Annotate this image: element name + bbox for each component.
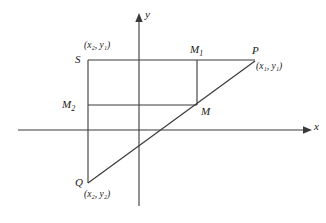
point-label-m1-base: M [190, 43, 199, 55]
point-label-m: M [201, 106, 210, 117]
coord-label-p: (x₁, y₁) [256, 62, 282, 72]
y-axis [135, 13, 142, 206]
point-label-q: Q [75, 177, 83, 188]
segment-q-to-p [88, 61, 255, 183]
point-label-m2: M2 [62, 99, 75, 113]
coord-label-s: (x₂, y₁) [84, 41, 110, 51]
x-axis-arrowhead [303, 126, 312, 133]
x-axis-label: x [314, 121, 319, 132]
coord-label-q: (x₂, y₂) [84, 190, 110, 200]
figure-canvas [0, 0, 326, 223]
point-label-m2-subscript: 2 [71, 104, 75, 113]
point-label-m1-subscript: 1 [199, 49, 203, 58]
point-label-m1: M1 [190, 44, 203, 58]
point-label-p: P [252, 45, 259, 56]
y-axis-arrowhead [135, 13, 142, 22]
y-axis-label: y [145, 9, 150, 20]
geometry-figure: x y S (x₂, y₁) M1 P (x₁, y₁) M2 M Q (x₂,… [0, 0, 326, 223]
point-label-m2-base: M [62, 98, 71, 110]
point-label-s: S [75, 54, 81, 65]
